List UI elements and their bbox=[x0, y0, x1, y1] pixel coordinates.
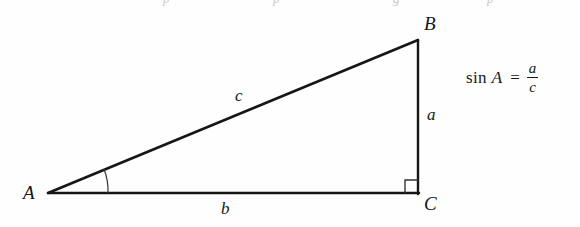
formula-argument: A bbox=[492, 69, 502, 86]
formula-numerator: a bbox=[527, 60, 539, 76]
side-label-b: b bbox=[221, 200, 230, 217]
formula-fraction: a c bbox=[527, 60, 539, 95]
side-c-hypotenuse-line bbox=[48, 40, 418, 193]
triangle-drawing bbox=[0, 0, 580, 227]
angle-arc-at-a bbox=[104, 169, 108, 193]
figure-canvas: p p g p A B C a b c sin A = a c bbox=[0, 0, 580, 227]
formula-denominator: c bbox=[527, 79, 538, 95]
vertex-label-b: B bbox=[424, 14, 436, 33]
formula-function-name: sin bbox=[466, 69, 487, 86]
vertex-label-c: C bbox=[424, 194, 437, 213]
fraction-bar bbox=[527, 77, 539, 78]
vertex-label-a: A bbox=[23, 183, 35, 202]
right-angle-marker-at-c bbox=[405, 180, 418, 193]
formula-equals-sign: = bbox=[510, 69, 520, 86]
sine-formula: sin A = a c bbox=[466, 60, 538, 95]
side-label-a: a bbox=[427, 106, 436, 123]
side-label-c: c bbox=[235, 87, 243, 104]
